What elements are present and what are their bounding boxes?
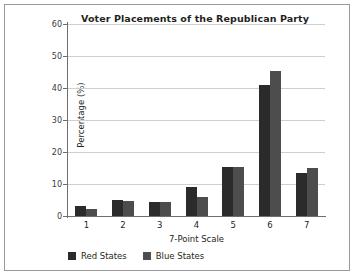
bar-red-states-6 [259, 85, 270, 216]
legend-label: Red States [81, 251, 127, 261]
y-axis-tick-label: 0 [36, 212, 62, 221]
bar-red-states-7 [296, 173, 307, 216]
y-axis-tick-mark [63, 216, 67, 217]
legend-item: Blue States [143, 251, 204, 261]
bar-red-states-4 [186, 187, 197, 216]
y-axis-tick-mark [63, 88, 67, 89]
bar-red-states-2 [112, 200, 123, 216]
bar-group [75, 24, 97, 216]
x-axis-tick-label: 3 [157, 220, 162, 230]
y-axis-tick-label: 40 [36, 84, 62, 93]
bar-blue-states-1 [86, 209, 97, 216]
x-axis-tick-label: 7 [304, 220, 309, 230]
legend-label: Blue States [156, 251, 204, 261]
legend-item: Red States [68, 251, 127, 261]
chart-legend: Red StatesBlue States [68, 251, 325, 261]
bar-red-states-1 [75, 206, 86, 216]
y-axis-tick-mark [63, 120, 67, 121]
y-axis-tick-label: 20 [36, 148, 62, 157]
bar-group [222, 24, 244, 216]
x-axis-label: 7-Point Scale [68, 234, 325, 244]
y-axis-tick-labels: 0102030405060 [34, 0, 62, 275]
chart-title: Voter Placements of the Republican Party [60, 13, 330, 24]
bar-red-states-3 [149, 202, 160, 216]
plot-area [68, 24, 325, 216]
bar-group [296, 24, 318, 216]
y-axis-tick-label: 60 [36, 20, 62, 29]
bar-group [259, 24, 281, 216]
y-axis-tick-mark [63, 152, 67, 153]
bar-group [186, 24, 208, 216]
y-axis-tick-mark [63, 24, 67, 25]
bar-group [112, 24, 134, 216]
bar-group [149, 24, 171, 216]
bar-blue-states-5 [233, 167, 244, 216]
bar-blue-states-2 [123, 201, 134, 216]
y-axis-tick-label: 30 [36, 116, 62, 125]
x-axis-tick-label: 2 [120, 220, 125, 230]
legend-swatch-icon [143, 252, 151, 260]
x-axis-tick-label: 4 [194, 220, 199, 230]
bar-blue-states-7 [307, 168, 318, 216]
x-axis-tick-label: 6 [267, 220, 272, 230]
bar-red-states-5 [222, 167, 233, 216]
chart-figure: Voter Placements of the Republican Party… [0, 0, 354, 275]
x-axis-tick-label: 5 [230, 220, 235, 230]
y-axis-tick-label: 50 [36, 52, 62, 61]
x-axis-tick-label: 1 [84, 220, 89, 230]
y-axis-tick-label: 10 [36, 180, 62, 189]
bar-blue-states-6 [270, 71, 281, 216]
y-axis-tick-mark [63, 184, 67, 185]
y-axis-tick-mark [63, 56, 67, 57]
x-axis-line [67, 216, 326, 217]
bar-blue-states-4 [197, 197, 208, 216]
legend-swatch-icon [68, 252, 76, 260]
bar-blue-states-3 [160, 202, 171, 216]
